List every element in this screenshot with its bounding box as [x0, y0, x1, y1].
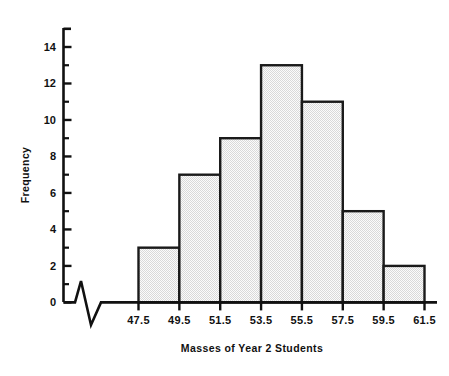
y-axis-tick-label: 12	[44, 77, 56, 89]
y-axis-title: Frequency	[19, 147, 31, 204]
x-axis-tick-label: 53.5	[250, 314, 273, 326]
histogram-plot: 02468101214 47.549.551.553.555.557.559.5…	[0, 0, 449, 376]
x-axis-tick-labels: 47.549.551.553.555.557.559.561.5	[127, 314, 436, 326]
histogram-bar	[343, 211, 384, 302]
histogram-figure: 02468101214 47.549.551.553.555.557.559.5…	[0, 0, 449, 376]
x-axis-title: Masses of Year 2 Students	[181, 342, 323, 354]
y-axis-tick-label: 6	[50, 187, 56, 199]
x-axis-tick-label: 55.5	[291, 314, 314, 326]
y-axis-tick-label: 2	[50, 260, 56, 272]
histogram-bar	[179, 175, 220, 303]
x-axis-tick-label: 59.5	[372, 314, 395, 326]
y-axis-tick-label: 8	[50, 150, 56, 162]
histogram-bar	[384, 266, 425, 302]
histogram-bar	[302, 102, 343, 303]
x-axis-tick-label: 49.5	[168, 314, 191, 326]
x-axis-break-zigzag	[64, 281, 105, 325]
y-axis-tick-label: 0	[50, 296, 56, 308]
y-axis-tick-label: 10	[44, 114, 56, 126]
x-axis-tick-label: 47.5	[127, 314, 150, 326]
y-axis-tick-label: 14	[44, 41, 57, 53]
x-axis-tick-label: 57.5	[331, 314, 354, 326]
x-axis-tick-label: 51.5	[209, 314, 232, 326]
histogram-bar	[261, 65, 302, 302]
bars-group	[139, 65, 425, 302]
x-axis-tick-label: 61.5	[413, 314, 436, 326]
y-axis-tick-labels: 02468101214	[44, 41, 57, 308]
histogram-bar	[139, 248, 180, 303]
y-axis-tick-label: 4	[50, 223, 57, 235]
histogram-bar	[220, 138, 261, 302]
